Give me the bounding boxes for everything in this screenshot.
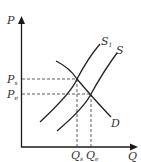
pe-label: Pe — [6, 88, 18, 101]
supply-demand-diagram: P Q S1 S D Ps Pe Qs Qe — [0, 0, 141, 162]
demand-curve-d — [56, 61, 111, 117]
s-label: S — [116, 44, 124, 57]
price-labels: Ps Pe — [6, 73, 18, 101]
y-axis-arrow-icon — [18, 16, 25, 24]
curves — [40, 44, 117, 131]
y-axis-label: P — [6, 14, 15, 27]
guide-lines — [22, 79, 91, 147]
d-label: D — [110, 117, 120, 130]
quantity-labels: Qs Qe — [71, 149, 99, 162]
x-axis-label: Q — [128, 150, 137, 162]
curve-labels: S1 S D — [101, 35, 124, 130]
s1-label: S1 — [101, 35, 112, 48]
ps-label: Ps — [6, 73, 18, 86]
supply-curve-s — [57, 53, 117, 131]
qe-label: Qe — [86, 149, 99, 162]
qs-label: Qs — [71, 149, 83, 162]
